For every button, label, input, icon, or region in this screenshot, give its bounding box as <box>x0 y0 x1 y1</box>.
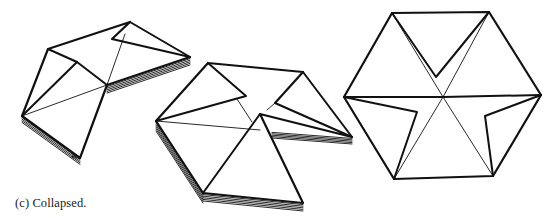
collapsed-fold-diagram <box>0 0 558 218</box>
partially-folded-shape-middle <box>156 63 352 211</box>
paper-face <box>156 63 352 203</box>
figure-caption: (c) Collapsed. <box>15 196 87 211</box>
hexagon-collapsed-shape <box>344 12 541 179</box>
paper-layer-edge <box>272 135 352 141</box>
